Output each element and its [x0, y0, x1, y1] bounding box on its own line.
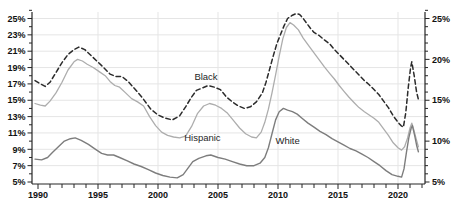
chart-background — [0, 0, 456, 210]
y-axis-label-left: 21% — [7, 46, 25, 56]
y-axis-label-right: 20% — [432, 55, 450, 65]
line-chart-figure: 25%23%21%19%17%15%13%11%9%7%5%25%20%15%1… — [0, 0, 456, 210]
y-axis-label-left: 13% — [7, 112, 25, 122]
x-axis-label: 2020 — [388, 190, 408, 200]
x-axis-label: 2010 — [268, 190, 288, 200]
y-axis-label-left: 17% — [7, 79, 25, 89]
y-axis-label-right: 15% — [432, 95, 450, 105]
y-axis-label-left: 9% — [12, 145, 25, 155]
y-axis-label-left: 11% — [8, 128, 26, 138]
x-axis-label: 1995 — [88, 190, 108, 200]
series-label-white: White — [275, 135, 299, 146]
x-axis-label: 1990 — [28, 190, 48, 200]
y-axis-label-right: 10% — [432, 136, 450, 146]
series-label-black: Black — [194, 71, 217, 82]
x-axis-label: 2000 — [148, 190, 168, 200]
y-axis-label-left: 19% — [7, 63, 25, 73]
y-axis-label-left: 7% — [12, 161, 25, 171]
y-axis-label-right: 5% — [432, 177, 445, 187]
y-axis-label-right: 25% — [432, 14, 450, 24]
y-axis-label-left: 23% — [7, 30, 25, 40]
y-axis-label-left: 5% — [12, 177, 25, 187]
chart-canvas: 25%23%21%19%17%15%13%11%9%7%5%25%20%15%1… — [0, 0, 456, 210]
x-axis-label: 2005 — [208, 190, 228, 200]
y-axis-label-left: 25% — [7, 14, 25, 24]
series-label-hispanic: Hispanic — [184, 132, 221, 143]
x-axis-label: 2015 — [328, 190, 348, 200]
y-axis-label-left: 15% — [7, 95, 25, 105]
